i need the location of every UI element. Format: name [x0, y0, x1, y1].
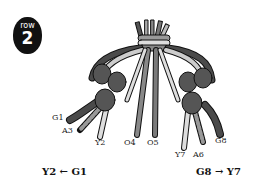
- strand-label-g8: G8: [215, 136, 226, 145]
- strand-label-a6: A6: [193, 150, 204, 159]
- caption-left: Y2 ← G1: [42, 166, 87, 177]
- strand-label-y2: Y2: [95, 138, 105, 147]
- strand-label-g1: G1: [52, 113, 63, 122]
- bracelet-knot-illustration: [0, 0, 255, 184]
- strand-label-y7: Y7: [175, 150, 185, 159]
- strand-label-o5: O5: [147, 138, 159, 147]
- strand-label-o4: O4: [124, 138, 136, 147]
- caption-right: G8 → Y7: [196, 166, 241, 177]
- strand-label-a3: A3: [62, 126, 73, 135]
